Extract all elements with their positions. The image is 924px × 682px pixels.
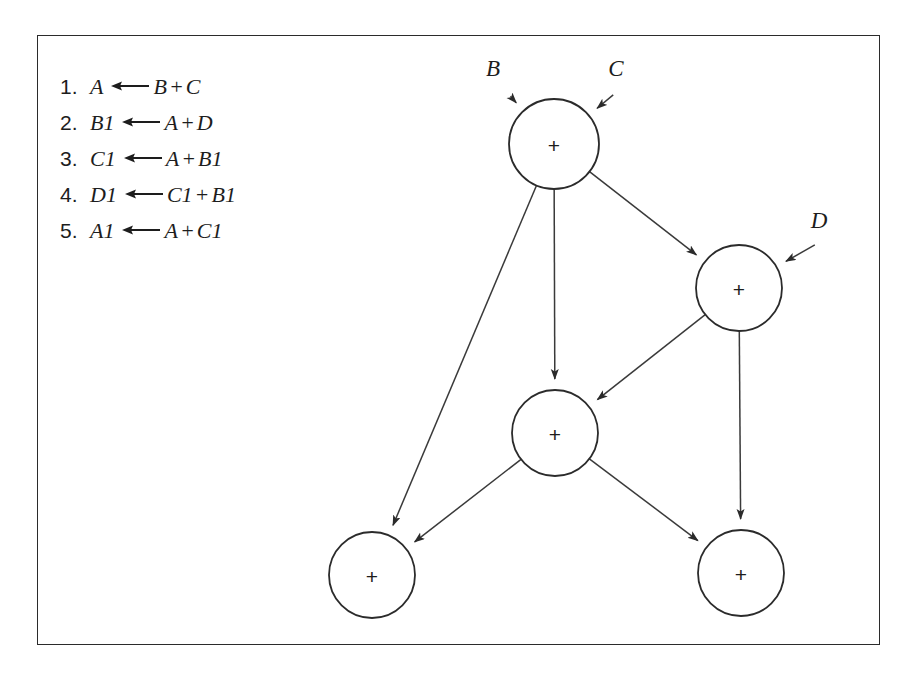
edge-c1-to-d1 [589,459,698,541]
edge-a-to-c1 [554,189,555,379]
adder-nodes-group: +++++ [329,99,784,618]
edge-a-to-b1 [590,172,697,255]
edge-b1-to-c1 [597,315,705,400]
input-port-d-arrow [786,245,815,261]
adder-node-a1[interactable]: + [329,532,415,618]
adder-node-a[interactable]: + [509,99,599,189]
adder-node-d1[interactable]: + [698,530,784,616]
edge-c1-to-a1 [415,459,521,542]
input-port-d-label: D [810,208,828,233]
plus-icon: + [735,563,747,586]
plus-icon: + [366,565,378,588]
plus-icon: + [733,278,745,301]
figure-border: 1. A B + C 2. B1 A + D 3. C1 A [37,35,880,645]
plus-icon: + [549,423,561,446]
edge-b1-to-d1 [739,331,740,519]
input-port-b-arrow [510,96,516,102]
adder-node-c1[interactable]: + [512,390,598,476]
input-port-c-label: C [608,56,624,81]
adder-node-b1[interactable]: + [696,245,782,331]
edges-group [393,172,741,542]
edge-a-to-a1 [393,185,536,525]
dataflow-graph: BCD +++++ [38,36,881,646]
input-port-c-arrow [597,95,613,108]
input-port-b-label: B [486,56,500,81]
plus-icon: + [548,134,560,157]
